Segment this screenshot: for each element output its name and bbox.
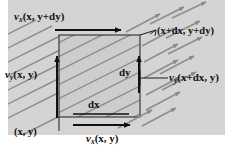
label-top-velocity-args: (x, y+dy) [23, 10, 65, 23]
label-bottom-velocity-args: (x, y) [95, 132, 119, 145]
label-left-velocity-args: (x, y) [13, 68, 37, 81]
label-dy: dy [119, 66, 131, 78]
label-corner-top-right: (x+dx, y+dy) [157, 25, 214, 37]
label-corner-bottom-left: (x, y) [14, 126, 37, 138]
label-dx: dx [88, 98, 100, 110]
label-right-velocity: vy(x+dx, y) [169, 71, 219, 85]
label-right-velocity-args: (x+dx, y) [177, 71, 219, 84]
control-volume-diagram: vx(x, y+dy) (x+dx, y+dy) vy(x, y) vy(x+d… [0, 0, 236, 150]
figure-container: vx(x, y+dy) (x+dx, y+dy) vy(x, y) vy(x+d… [0, 0, 236, 150]
label-left-velocity: vy(x, y) [5, 68, 37, 82]
